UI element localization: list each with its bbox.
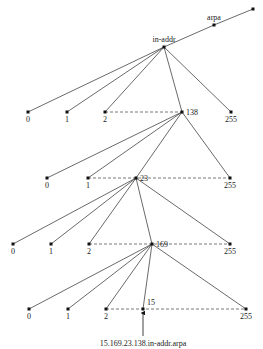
node-l4-255: [245, 308, 248, 311]
node-l3-1: [50, 243, 53, 246]
label-l3-2: 2: [87, 247, 91, 256]
label-l1-255: 255: [225, 115, 237, 124]
edge-l1-1: [67, 47, 164, 112]
node-in-addr: [163, 46, 166, 49]
label-in-addr: in-addr: [152, 35, 175, 44]
edge-l4-1: [68, 244, 152, 309]
node-l4-2: [105, 308, 108, 311]
label-l4-0: 0: [27, 312, 31, 321]
tree-nodes: [12, 8, 255, 311]
edge-l1-255: [164, 47, 231, 112]
label-l2-0: 0: [45, 181, 49, 190]
edge-l3-2: [89, 178, 136, 244]
label-l1-138: 138: [186, 108, 198, 117]
node-l3-0: [12, 243, 15, 246]
label-l4-255: 255: [240, 312, 252, 321]
label-l1-0: 0: [26, 115, 30, 124]
label-l1-1: 1: [65, 115, 69, 124]
node-l4-15: [142, 308, 145, 311]
label-l3-255: 255: [224, 247, 236, 256]
node-l3-255: [229, 243, 232, 246]
label-l2-1: 1: [86, 181, 90, 190]
node-l2-0: [46, 177, 49, 180]
edge-l4-2: [106, 244, 152, 309]
label-l1-2: 2: [103, 115, 107, 124]
dns-tree-diagram: arpain-addr01213825501232550121692550121…: [0, 0, 263, 349]
edge-l3-1: [51, 178, 136, 244]
edge-l3-255: [136, 178, 230, 244]
label-arpa: arpa: [207, 13, 221, 22]
tree-labels: arpain-addr01213825501232550121692550121…: [11, 13, 252, 321]
node-l1-0: [27, 111, 30, 114]
node-l1-2: [104, 111, 107, 114]
node-l1-255: [230, 111, 233, 114]
edge-l1-138: [164, 47, 182, 112]
label-l4-2: 2: [104, 312, 108, 321]
label-l2-23: 23: [140, 174, 148, 183]
edge-l3-0: [13, 178, 136, 244]
tree-edges: [13, 9, 253, 309]
node-l2-255: [229, 177, 232, 180]
edge-l2-23: [136, 112, 182, 178]
label-l4-1: 1: [66, 312, 70, 321]
edge-l2-255: [182, 112, 230, 178]
node-arpa: [213, 24, 216, 27]
node-l2-23: [135, 177, 138, 180]
node-l4-0: [28, 308, 31, 311]
edge-l1-2: [105, 47, 164, 112]
node-root: [252, 8, 255, 11]
edge-l1-0: [28, 47, 164, 112]
label-l3-169: 169: [156, 240, 168, 249]
node-l1-138: [181, 111, 184, 114]
node-l4-1: [67, 308, 70, 311]
node-l3-2: [88, 243, 91, 246]
range-dashes: [88, 112, 246, 309]
label-l2-255: 255: [224, 181, 236, 190]
result-label: 15.169.23.138.in-addr.arpa: [100, 339, 187, 348]
node-l1-1: [66, 111, 69, 114]
label-l3-1: 1: [49, 247, 53, 256]
label-l3-0: 0: [11, 247, 15, 256]
node-l3-169: [151, 243, 154, 246]
node-l2-1: [87, 177, 90, 180]
label-l4-15: 15: [147, 298, 155, 307]
